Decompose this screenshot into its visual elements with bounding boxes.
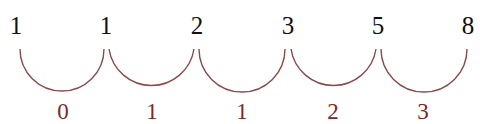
term-5: 5 bbox=[372, 13, 385, 38]
difference-4: 2 bbox=[327, 100, 339, 123]
arc-3 bbox=[199, 49, 285, 92]
term-4: 3 bbox=[282, 13, 295, 38]
term-1: 1 bbox=[10, 13, 23, 38]
arc-2 bbox=[109, 49, 194, 85]
arc-5 bbox=[381, 49, 467, 92]
difference-5: 3 bbox=[417, 100, 429, 123]
term-6: 8 bbox=[462, 13, 475, 38]
arc-1 bbox=[20, 49, 104, 91]
difference-3: 1 bbox=[236, 100, 248, 123]
difference-1: 0 bbox=[57, 100, 69, 123]
arc-4 bbox=[291, 49, 376, 85]
difference-2: 1 bbox=[146, 100, 158, 123]
term-3: 2 bbox=[191, 13, 204, 38]
term-2: 1 bbox=[100, 13, 113, 38]
